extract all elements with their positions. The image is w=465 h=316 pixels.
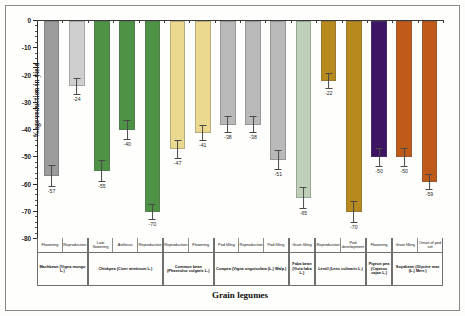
growth-stage-label: Reproduction <box>138 238 162 253</box>
species-group: ReproductionFloweringCommon bean (Phaseo… <box>163 238 214 286</box>
error-bar <box>48 165 55 187</box>
growth-stage-label: Flowering <box>367 238 391 253</box>
bar-slot: -24 <box>64 21 89 238</box>
bar <box>346 21 362 212</box>
bar-slot: -38 <box>215 21 240 238</box>
growth-stage-label: Grain filling <box>290 238 314 253</box>
x-tick <box>164 20 165 23</box>
bar-value-label: -50 <box>375 168 383 174</box>
x-tick <box>113 20 114 23</box>
species-name-label: Cowpea (Vigna unguiculata (L.) Walp.) <box>215 253 288 285</box>
y-tick-minor <box>35 85 37 86</box>
species-group: FloweringPigeon pea (Cajanus cajan L.) <box>366 238 392 286</box>
error-bar <box>325 73 332 89</box>
bar <box>396 21 412 157</box>
bar <box>94 21 110 171</box>
growth-stage-label: Pod development <box>341 238 365 253</box>
y-tick-label: -20 <box>22 71 31 78</box>
x-axis-label-table: FloweringReproductionMashbean (Vigna mun… <box>37 238 443 286</box>
growth-stage-row: Late floweringAnthesisReproduction <box>89 238 162 253</box>
bar <box>170 21 186 149</box>
error-bar <box>199 125 206 141</box>
y-tick-minor <box>35 36 37 37</box>
growth-stage-label: Grain filling <box>393 238 418 253</box>
error-bar <box>174 140 181 159</box>
y-tick-minor <box>35 140 37 141</box>
species-group: Grain fillingOnset of pod setSoyabean (G… <box>392 238 443 286</box>
y-tick-minor <box>35 80 37 81</box>
error-bar <box>124 120 131 139</box>
bar <box>44 21 60 176</box>
y-tick-minor <box>35 107 37 108</box>
x-tick <box>367 20 368 23</box>
bar-slot: -47 <box>165 21 190 238</box>
bar <box>371 21 387 157</box>
bar-value-label: -70 <box>350 224 358 230</box>
species-name-label: Faba bean (Vicia faba L.) <box>290 253 314 285</box>
bar <box>195 21 211 133</box>
growth-stage-row: Grain fillingOnset of pod set <box>393 238 442 253</box>
x-tick <box>392 20 393 23</box>
y-tick-minor <box>35 205 37 206</box>
bar-slot: -59 <box>417 21 442 238</box>
y-tick-major <box>33 102 37 103</box>
x-tick <box>265 20 266 23</box>
bar-slot: -41 <box>190 21 215 238</box>
growth-stage-row: Pod fillingReproductionPod filling <box>215 238 288 253</box>
bar-value-label: -50 <box>400 168 408 174</box>
bar-slot: -70 <box>140 21 165 238</box>
species-name-label: Lentil (Lens culinaris L.) <box>316 253 365 285</box>
species-group: Pod fillingReproductionPod fillingCowpea… <box>214 238 289 286</box>
error-bar <box>98 160 105 182</box>
y-tick-minor <box>35 222 37 223</box>
bar-value-label: -22 <box>325 90 333 96</box>
growth-stage-label: Reproduction <box>164 238 189 253</box>
y-tick-minor <box>35 189 37 190</box>
bar-slot: -70 <box>341 21 366 238</box>
y-tick-label: -70 <box>22 207 31 214</box>
y-tick-label: -80 <box>22 235 31 242</box>
bar <box>119 21 135 130</box>
x-tick <box>139 20 140 23</box>
bar-value-label: -40 <box>123 141 131 147</box>
bar <box>296 21 312 198</box>
bar-value-label: -41 <box>199 142 207 148</box>
x-axis-title: Grain legumes <box>37 290 443 300</box>
growth-stage-label: Flowering <box>38 238 63 253</box>
y-tick-minor <box>35 200 37 201</box>
bar-slot: -57 <box>39 21 64 238</box>
x-tick <box>240 20 241 23</box>
y-tick-minor <box>35 64 37 65</box>
bar-slot: -22 <box>316 21 341 238</box>
y-tick-label: -50 <box>22 153 31 160</box>
bar-value-label: -57 <box>48 188 56 194</box>
growth-stage-label: Pod filling <box>264 238 288 253</box>
growth-stage-label: Reproduction <box>316 238 341 253</box>
x-tick <box>62 20 63 23</box>
y-tick-minor <box>35 124 37 125</box>
y-tick-major <box>33 211 37 212</box>
bar <box>69 21 85 86</box>
bar-slot: -51 <box>266 21 291 238</box>
species-name-label: Chickpea (Cicer arietinum L.) <box>89 253 162 285</box>
y-tick-minor <box>35 145 37 146</box>
y-tick-minor <box>35 162 37 163</box>
y-tick-minor <box>35 69 37 70</box>
growth-stage-row: ReproductionPod development <box>316 238 365 253</box>
y-tick-minor <box>35 216 37 217</box>
bar-value-label: -65 <box>300 210 308 216</box>
bar-value-label: -38 <box>249 134 257 140</box>
y-tick-minor <box>35 25 37 26</box>
figure-chart-yield-reduction: %age reduction in yield -57-24-55-40-70-… <box>0 0 465 316</box>
bar <box>245 21 261 125</box>
growth-stage-label: Anthesis <box>113 238 138 253</box>
error-bar <box>376 148 383 167</box>
bar-value-label: -70 <box>149 221 157 227</box>
y-tick-minor <box>35 42 37 43</box>
species-group: Grain fillingFaba bean (Vicia faba L.) <box>289 238 315 286</box>
y-tick-label: -40 <box>22 126 31 133</box>
bar-value-label: -38 <box>224 134 232 140</box>
error-bar <box>149 204 156 220</box>
growth-stage-row: Grain filling <box>290 238 314 253</box>
species-name-label: Pigeon pea (Cajanus cajan L.) <box>367 253 391 285</box>
